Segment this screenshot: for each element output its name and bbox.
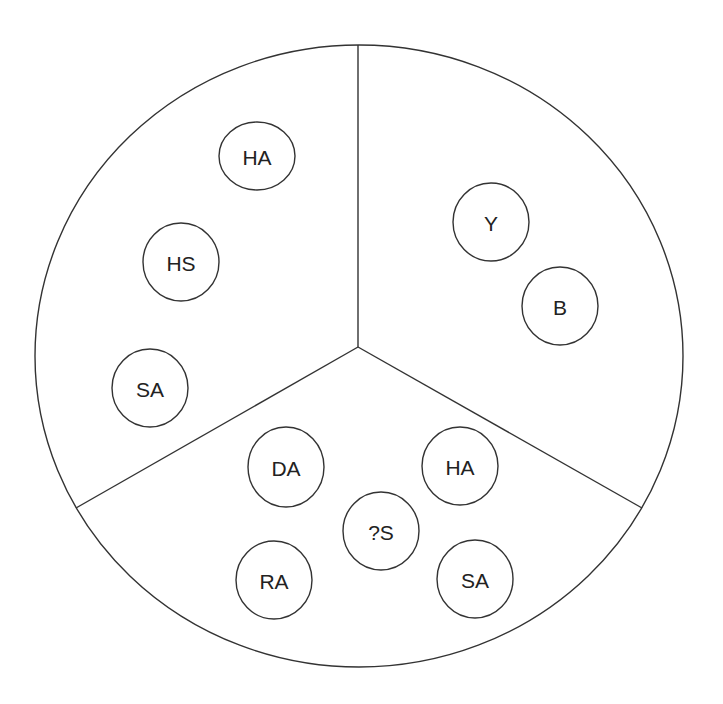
node-unknown-s: ?S <box>343 492 419 570</box>
node-ha-upper: HA <box>219 122 295 190</box>
node-b: B <box>522 267 598 345</box>
node-label: HS <box>166 252 195 275</box>
node-label: ?S <box>368 521 394 544</box>
node-label: RA <box>259 570 288 593</box>
node-label: B <box>553 296 567 319</box>
node-label: SA <box>461 569 489 592</box>
node-label: Y <box>484 212 498 235</box>
sector-upper-left: HA HS SA <box>112 122 295 427</box>
sector-upper-right: Y B <box>453 183 598 345</box>
node-sa-left: SA <box>112 349 188 427</box>
node-label: DA <box>271 457 300 480</box>
node-y: Y <box>453 183 529 261</box>
node-hs: HS <box>143 223 219 301</box>
divider-right <box>358 347 642 508</box>
node-label: HA <box>242 146 271 169</box>
node-label: HA <box>445 456 474 479</box>
node-ra: RA <box>236 541 312 619</box>
node-da: DA <box>248 427 324 507</box>
node-ha-bottom: HA <box>422 427 498 505</box>
sectored-circle-diagram: HA HS SA Y B DA HA <box>0 0 723 704</box>
sector-bottom: DA HA ?S RA SA <box>236 427 513 619</box>
node-sa-bottom: SA <box>437 540 513 618</box>
node-label: SA <box>136 378 164 401</box>
